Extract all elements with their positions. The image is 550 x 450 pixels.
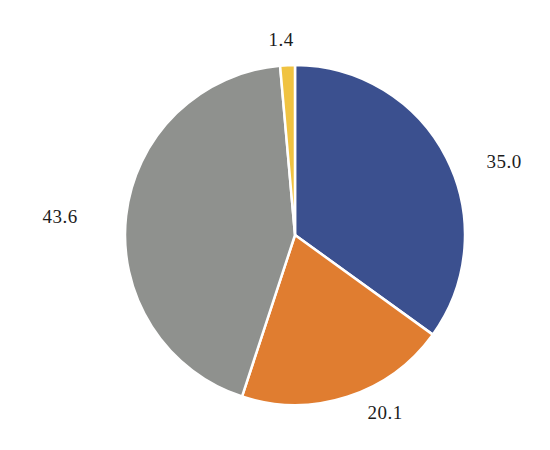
pie-chart bbox=[0, 0, 550, 450]
pie-data-label-gray: 43.6 bbox=[42, 207, 77, 226]
pie-data-label-orange: 20.1 bbox=[367, 403, 402, 422]
chart-canvas: 35.0 20.1 43.6 1.4 bbox=[0, 0, 550, 450]
pie-data-label-blue: 35.0 bbox=[486, 152, 521, 171]
pie-data-label-yellow: 1.4 bbox=[268, 30, 293, 49]
